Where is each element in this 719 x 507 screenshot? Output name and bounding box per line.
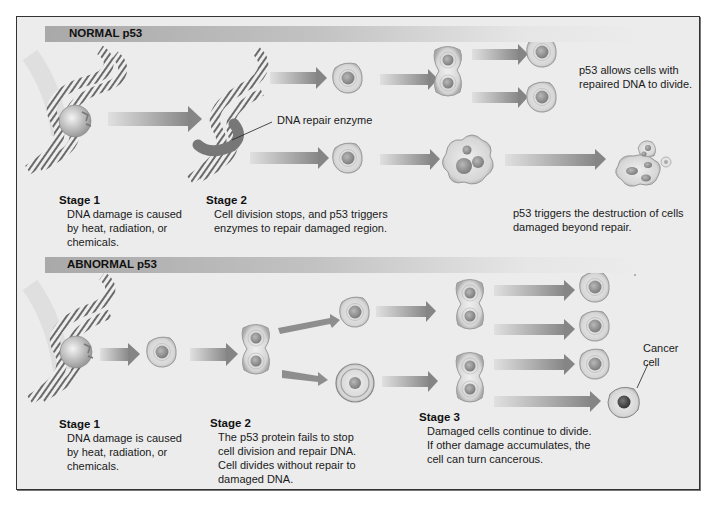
normal-stage1-title: Stage 1 xyxy=(59,194,100,206)
cell-icon xyxy=(580,349,609,379)
abnormal-stage2-title: Stage 2 xyxy=(210,417,251,429)
dividing-cell-icon xyxy=(456,353,483,403)
normal-stage2-title: Stage 2 xyxy=(206,194,247,206)
abnormal-stage1-text: DNA damage is caused by heat, radiation,… xyxy=(67,431,182,473)
outcome-divide-text: p53 allows cells with repaired DNA to di… xyxy=(579,63,692,91)
dividing-cell-icon xyxy=(456,280,483,330)
abnormal-p53-header-bar: ABNORMAL p53 xyxy=(45,257,645,273)
cell-icon xyxy=(333,63,362,93)
abnormal-stage1-title: Stage 1 xyxy=(59,418,100,430)
cell-icon xyxy=(340,297,369,327)
abnormal-stage3-text: Damaged cells continue to divide. If oth… xyxy=(427,424,591,466)
cell-icon xyxy=(580,272,609,302)
normal-stage2-text: Cell division stops, and p53 triggers en… xyxy=(214,207,388,235)
cell-icon xyxy=(527,82,556,112)
cell-icon xyxy=(147,337,176,367)
outcome-destroy-text: p53 triggers the destruction of cells da… xyxy=(513,206,684,234)
damaged-cell-icon xyxy=(336,364,374,402)
abnormal-stage3-title: Stage 3 xyxy=(419,411,460,423)
abnormal-stage2-text: The p53 protein fails to stop cell divis… xyxy=(218,430,356,486)
cancer-cell-label: Cancer cell xyxy=(643,341,678,369)
normal-stage1-text: DNA damage is caused by heat, radiation,… xyxy=(67,207,182,249)
normal-p53-header-bar: NORMAL p53 xyxy=(45,26,645,42)
cell-icon xyxy=(580,311,609,341)
damaged-cell-icon xyxy=(442,135,493,184)
dividing-cell-icon xyxy=(434,47,461,97)
dna-repair-enzyme-label: DNA repair enzyme xyxy=(277,113,372,127)
normal-p53-header: NORMAL p53 xyxy=(69,27,142,39)
apoptotic-cell-icon xyxy=(616,141,671,186)
dividing-cell-icon xyxy=(242,325,269,375)
cell-icon xyxy=(333,143,362,173)
abnormal-p53-header: ABNORMAL p53 xyxy=(67,258,157,270)
cancer-cell-icon xyxy=(608,387,639,417)
